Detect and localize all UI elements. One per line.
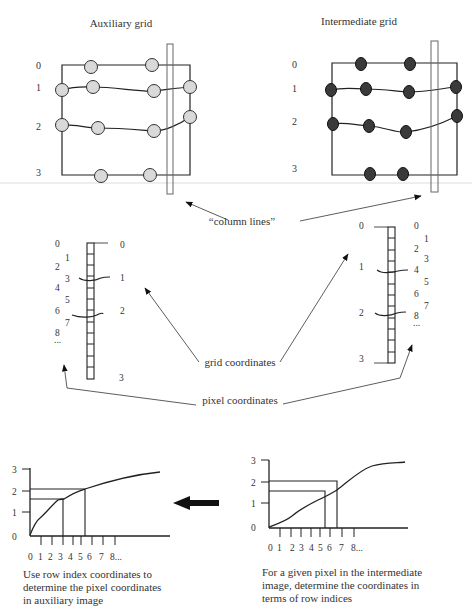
pixel-coordinates-label: pixel coordinates — [202, 394, 277, 406]
left-arrow-icon — [173, 496, 219, 510]
right-grid-label-0: 0 — [359, 221, 364, 231]
aux-row-label-0: 0 — [36, 60, 41, 71]
right-pixel-label-2: 2 — [414, 244, 419, 254]
aux-row-label-1: 1 — [36, 82, 41, 93]
right-x-tick-8: 8... — [351, 543, 363, 553]
right-pixel-label-4: 4 — [414, 265, 419, 275]
left-grid-label-1: 1 — [120, 273, 125, 283]
left-caption-line-3: in auxiliary image — [23, 594, 161, 607]
left-pixel-label-4: 4 — [55, 283, 60, 293]
right-grid-label-1: 1 — [359, 262, 364, 272]
grid-coordinates-label: grid coordinates — [204, 356, 275, 368]
auxiliary-grid: Auxiliary grid 0 1 2 3 — [36, 17, 197, 194]
left-pixel-label-7: 7 — [65, 318, 70, 328]
right-x-tick-4: 4 — [309, 543, 314, 553]
right-chart: 3 2 1 0 0 1 2 3 4 5 6 7 8... — [251, 456, 408, 553]
right-pixel-label-5: 5 — [424, 277, 429, 287]
left-x-tick-4: 4 — [68, 552, 73, 562]
left-y-tick-0: 0 — [12, 532, 17, 542]
left-x-tick-3: 3 — [58, 552, 63, 562]
right-x-tick-1: 1 — [277, 543, 282, 553]
left-grid-label-2: 2 — [120, 306, 125, 316]
right-grid-label-3: 3 — [359, 354, 364, 364]
right-pixel-label-1: 1 — [424, 234, 429, 244]
inter-column-line — [431, 41, 438, 192]
left-grid-label-3: 3 — [119, 373, 124, 383]
right-caption-line-1: For a given pixel in the intermediate — [262, 566, 422, 579]
right-grid-label-2: 2 — [359, 308, 364, 318]
right-pixel-strip: 0 1 2 3 0 1 2 3 4 5 6 7 8 ... — [359, 221, 429, 364]
left-x-tick-0: 0 — [28, 552, 33, 562]
left-caption-line-1: Use row index coordinates to — [23, 568, 161, 581]
inter-row-label-3: 3 — [292, 163, 297, 174]
right-caption-line-2: image, determine the coordinates in — [262, 579, 422, 592]
right-pixel-label-0: 0 — [414, 221, 419, 231]
left-x-tick-2: 2 — [48, 552, 53, 562]
column-lines-label: “column lines” — [209, 215, 275, 227]
left-x-tick-8: 8... — [110, 552, 122, 562]
right-y-tick-1: 1 — [251, 499, 256, 509]
right-pixel-label-6: 6 — [414, 289, 419, 299]
inter-row-label-1: 1 — [292, 83, 297, 94]
left-x-tick-1: 1 — [38, 552, 43, 562]
right-y-tick-3: 3 — [251, 456, 256, 466]
left-pixel-label-2: 2 — [55, 262, 60, 272]
right-y-tick-0: 0 — [251, 523, 256, 533]
inter-row-label-0: 0 — [292, 59, 297, 70]
left-x-tick-7: 7 — [99, 552, 104, 562]
left-chart: 3 2 1 0 0 1 2 3 4 5 6 7 8... — [12, 465, 170, 562]
intermediate-grid-title: Intermediate grid — [321, 15, 398, 27]
diagram-canvas: Auxiliary grid 0 1 2 3 Intermediate grid… — [0, 0, 472, 613]
left-grid-label-0: 0 — [120, 240, 125, 250]
intermediate-grid: Intermediate grid 0 1 2 3 — [292, 15, 463, 192]
left-caption-line-2: determine the pixel coordinates — [23, 581, 161, 594]
left-pixel-label-3: 3 — [65, 274, 70, 284]
right-x-tick-2: 2 — [290, 543, 295, 553]
right-x-tick-7: 7 — [339, 543, 344, 553]
left-y-tick-1: 1 — [12, 508, 17, 518]
right-x-tick-5: 5 — [318, 543, 323, 553]
aux-column-line — [167, 44, 173, 194]
right-x-tick-3: 3 — [299, 543, 304, 553]
right-pixel-label-ellipsis: ... — [413, 318, 420, 328]
left-x-tick-6: 6 — [87, 552, 92, 562]
left-pixel-label-0: 0 — [55, 239, 60, 249]
right-x-tick-0: 0 — [268, 543, 273, 553]
right-x-tick-6: 6 — [327, 543, 332, 553]
inter-row-label-2: 2 — [292, 116, 297, 127]
left-x-tick-5: 5 — [78, 552, 83, 562]
left-y-tick-3: 3 — [12, 465, 17, 475]
right-caption-line-3: terms of row indices — [262, 592, 422, 605]
left-pixel-strip: 0 1 2 3 4 5 6 7 8 ... 0 1 2 3 — [54, 239, 125, 383]
left-pixel-label-5: 5 — [65, 295, 70, 305]
left-y-tick-2: 2 — [12, 487, 17, 497]
aux-row-label-2: 2 — [36, 121, 41, 132]
left-pixel-label-6: 6 — [55, 306, 60, 316]
left-pixel-label-1: 1 — [65, 253, 70, 263]
aux-row-label-3: 3 — [36, 167, 41, 178]
right-chart-caption: For a given pixel in the intermediate im… — [262, 566, 422, 605]
right-y-tick-2: 2 — [251, 478, 256, 488]
right-pixel-label-7: 7 — [424, 301, 429, 311]
left-chart-caption: Use row index coordinates to determine t… — [23, 568, 161, 607]
left-pixel-label-ellipsis: ... — [54, 335, 61, 345]
auxiliary-grid-title: Auxiliary grid — [90, 17, 153, 29]
right-pixel-label-3: 3 — [424, 254, 429, 264]
